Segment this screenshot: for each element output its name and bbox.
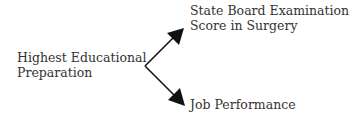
- arrow-to-exam-score: [145, 28, 184, 66]
- arrows-layer: [0, 0, 350, 126]
- arrow-to-job-performance: [145, 66, 185, 106]
